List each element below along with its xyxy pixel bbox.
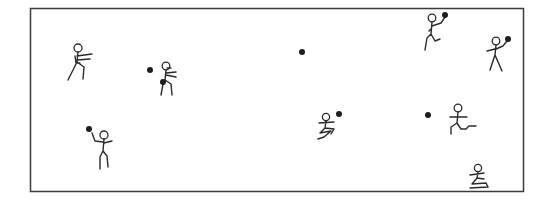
ball: [336, 111, 342, 117]
ball: [425, 112, 431, 118]
ball: [160, 79, 166, 85]
ball: [147, 67, 153, 73]
ball: [299, 49, 305, 55]
ball: [505, 36, 511, 42]
ball: [86, 126, 92, 132]
ball: [442, 12, 448, 18]
court-boundary: [31, 9, 524, 192]
dodgeball-court-illustration: [0, 0, 550, 202]
